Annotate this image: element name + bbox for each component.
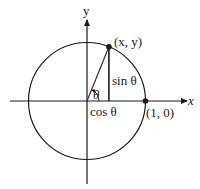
- point-1-0-label: (1, 0): [146, 105, 174, 120]
- point-xy: [106, 44, 112, 50]
- sine-label: sin θ: [112, 73, 137, 88]
- point-xy-label: (x, y): [114, 34, 142, 49]
- y-axis-label: y: [83, 3, 90, 18]
- point-1-0: [143, 98, 149, 104]
- x-axis-label: x: [187, 93, 194, 108]
- cosine-label: cos θ: [90, 104, 117, 119]
- theta-label: θ: [93, 87, 100, 102]
- unit-circle-diagram: y x (x, y) (1, 0) sin θ cos θ θ: [0, 0, 200, 189]
